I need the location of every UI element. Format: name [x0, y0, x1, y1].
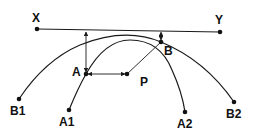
point-b-dot: [159, 40, 164, 45]
point-a-dot: [84, 72, 89, 77]
label-b1: B1: [10, 104, 26, 118]
label-p: P: [140, 75, 148, 89]
label-b: B: [164, 44, 173, 58]
label-y: Y: [215, 13, 223, 27]
label-x: X: [32, 11, 40, 25]
point-y-dot: [218, 30, 223, 35]
line-xy: [37, 29, 220, 32]
label-a2: A2: [177, 117, 193, 131]
label-a: A: [72, 65, 81, 79]
point-a1-dot: [67, 108, 72, 113]
curve-b1-b2: [19, 35, 234, 102]
point-b2-dot: [232, 100, 237, 105]
point-p-dot: [125, 72, 130, 77]
geometric-diagram: X Y A B P A1 A2 B1 B2: [0, 0, 254, 140]
point-b1-dot: [17, 97, 22, 102]
point-a2-dot: [183, 110, 188, 115]
point-x-dot: [35, 27, 40, 32]
label-b2: B2: [226, 107, 242, 121]
line-p-to-b: [127, 42, 161, 74]
label-a1: A1: [59, 115, 75, 129]
